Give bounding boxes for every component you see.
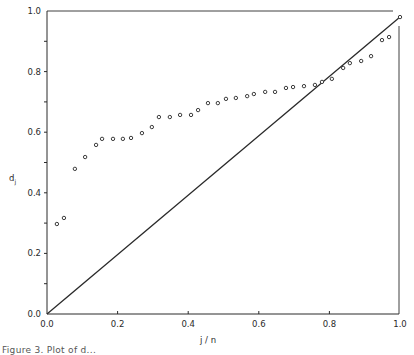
x-axis-label: j / n xyxy=(199,335,216,345)
data-point xyxy=(55,222,58,225)
data-point xyxy=(62,216,65,219)
data-point xyxy=(121,137,124,140)
data-point xyxy=(129,136,132,139)
data-point xyxy=(157,115,160,118)
data-point xyxy=(94,143,97,146)
y-tick-label: 0.8 xyxy=(27,67,41,77)
data-point xyxy=(387,35,390,38)
figure-caption: Figure 3. Plot of d... xyxy=(2,345,96,355)
data-point xyxy=(245,94,248,97)
data-point xyxy=(73,167,76,170)
data-point xyxy=(369,54,372,57)
data-point xyxy=(178,113,181,116)
data-point xyxy=(330,77,333,80)
data-point xyxy=(168,115,171,118)
data-point xyxy=(398,15,401,18)
data-point xyxy=(206,101,209,104)
data-point xyxy=(291,85,294,88)
data-point xyxy=(83,155,86,158)
y-tick-label: 0.4 xyxy=(27,188,41,198)
y-axis-label: dj xyxy=(9,173,16,186)
data-point xyxy=(252,92,255,95)
x-tick-label: 1.0 xyxy=(393,319,407,329)
data-point xyxy=(216,101,219,104)
data-point xyxy=(302,84,305,87)
data-points xyxy=(55,15,402,225)
data-point xyxy=(100,137,103,140)
data-point xyxy=(359,59,362,62)
data-point xyxy=(273,90,276,93)
axis-ticks xyxy=(44,41,329,314)
data-point xyxy=(380,38,383,41)
data-point xyxy=(140,131,143,134)
reference-diagonal-line xyxy=(47,17,400,314)
data-point xyxy=(313,83,316,86)
axes xyxy=(47,11,399,314)
x-tick-label: 0.0 xyxy=(40,319,54,329)
x-tick-labels: 0.00.20.40.60.81.0 xyxy=(40,319,407,329)
x-tick-label: 0.4 xyxy=(181,319,195,329)
x-tick-label: 0.6 xyxy=(252,319,266,329)
data-point xyxy=(234,96,237,99)
y-axis-label-subscript: j xyxy=(13,178,16,186)
data-point xyxy=(284,86,287,89)
y-tick-label: 1.0 xyxy=(27,6,41,16)
data-point xyxy=(189,113,192,116)
x-tick-label: 0.2 xyxy=(111,319,125,329)
data-point xyxy=(348,61,351,64)
data-point xyxy=(196,108,199,111)
y-tick-labels: 0.00.20.40.60.81.0 xyxy=(27,6,41,319)
y-tick-label: 0.0 xyxy=(27,309,41,319)
y-tick-label: 0.2 xyxy=(27,248,41,258)
x-tick-label: 0.8 xyxy=(323,319,337,329)
data-point xyxy=(111,137,114,140)
data-point xyxy=(320,80,323,83)
y-tick-label: 0.6 xyxy=(27,127,41,137)
data-point xyxy=(263,90,266,93)
data-point xyxy=(224,97,227,100)
data-point xyxy=(341,66,344,69)
data-point xyxy=(150,125,153,128)
